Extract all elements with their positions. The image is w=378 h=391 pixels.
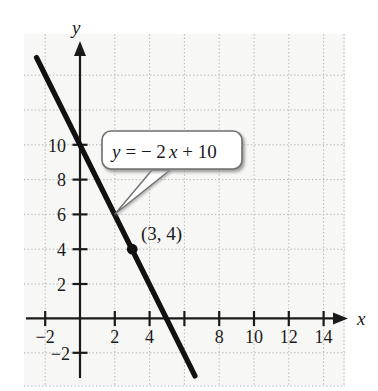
y-tick-label-6: 6 [57, 205, 66, 225]
point-marker-3-4 [127, 244, 138, 255]
y-tick-label-4: 4 [57, 240, 66, 260]
callout-eq-x: x [168, 141, 178, 162]
y-axis-label: y [70, 17, 81, 38]
x-axis-label: x [356, 308, 366, 329]
x-tick-label-12: 12 [280, 327, 298, 347]
callout-eq-rest: = − 2 [125, 141, 165, 162]
x-tick-label-4: 4 [145, 327, 154, 347]
y-tick-label-2: 2 [57, 275, 66, 295]
y-tick-label-8: 8 [57, 170, 66, 190]
callout-eq-tail: + 10 [182, 141, 216, 162]
y-tick-label-10: 10 [48, 136, 66, 156]
point-label-3-4: (3, 4) [141, 223, 182, 245]
x-tick-label-14: 14 [315, 327, 333, 347]
callout-equation-text: y= − 2x+ 10 [110, 141, 217, 162]
y-tick-label-neg2: −2 [51, 344, 70, 364]
plot-canvas: y= − 2x+ 10 (3, 4) y x −2 2 4 8 10 12 14… [0, 0, 378, 391]
x-tick-label-2: 2 [110, 327, 119, 347]
callout-eq-y: y [110, 141, 121, 162]
line-graph-figure: y= − 2x+ 10 (3, 4) y x −2 2 4 8 10 12 14… [0, 0, 378, 391]
x-tick-label-10: 10 [245, 327, 263, 347]
x-tick-label-8: 8 [215, 327, 224, 347]
